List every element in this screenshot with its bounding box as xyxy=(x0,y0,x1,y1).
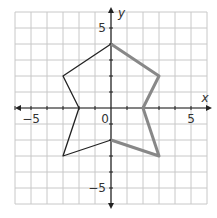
black-left-half xyxy=(63,44,111,156)
origin-label: 0 xyxy=(101,112,109,126)
y-axis-label: y xyxy=(117,6,126,20)
y-tick-label: 5 xyxy=(98,21,106,35)
x-tick-label: −5 xyxy=(22,112,40,126)
y-tick-label: −5 xyxy=(88,181,106,195)
gray-right-half xyxy=(111,44,159,156)
x-arrow-icon xyxy=(15,105,21,111)
coordinate-plane: −5505−5xy xyxy=(0,0,217,218)
x-axis-label: x xyxy=(200,91,209,105)
x-tick-label: 5 xyxy=(187,112,195,126)
